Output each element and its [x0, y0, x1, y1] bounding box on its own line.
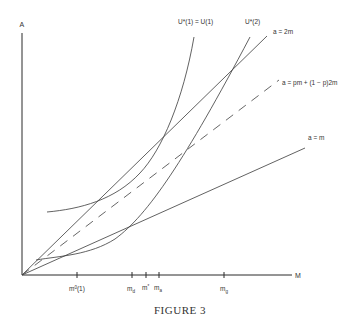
- label-a-2m: a = 2m: [273, 28, 293, 35]
- tick-label-m0-1: m0(1): [69, 285, 85, 293]
- x-axis-label: M: [295, 272, 301, 279]
- line-a-2m: [22, 36, 267, 275]
- line-a-pm-dashed: [22, 80, 279, 275]
- label-a-m: a = m: [308, 134, 324, 141]
- figure-caption: FIGURE 3: [154, 304, 206, 316]
- figure-diagram: A M m0(1) md m* ma mg a = 2m a = pm + (1…: [0, 0, 358, 331]
- curve-u2: [36, 37, 250, 260]
- tick-label-m-d: md: [127, 285, 135, 294]
- label-a-pm: a = pm + (1 − p)2m: [282, 79, 337, 87]
- tick-label-m-star: m*: [142, 284, 149, 291]
- tick-label-m-a: ma: [154, 284, 162, 293]
- label-curve-u1: U*(1) = U(1): [178, 18, 213, 26]
- label-curve-u2: U*(2): [245, 18, 260, 26]
- tick-label-m-g: mg: [220, 285, 228, 294]
- tick-label-m0-1-rest: (1): [77, 285, 85, 293]
- y-axis-label: A: [20, 21, 25, 28]
- curve-u1: [47, 37, 194, 212]
